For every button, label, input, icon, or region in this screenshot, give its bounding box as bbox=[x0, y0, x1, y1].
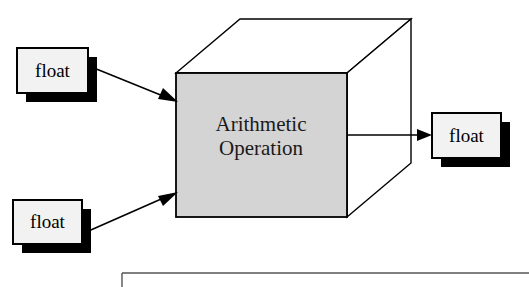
input-float-top[interactable]: float bbox=[17, 48, 97, 102]
arithmetic-operation-label-line2: Operation bbox=[219, 136, 303, 160]
arrow-input-top-head bbox=[158, 88, 178, 102]
arrow-output-head bbox=[417, 129, 432, 141]
output-float-label: float bbox=[449, 125, 485, 146]
output-float[interactable]: float bbox=[432, 113, 510, 167]
input-float-top-label: float bbox=[35, 60, 71, 81]
arithmetic-operation-cube[interactable]: Arithmetic Operation bbox=[176, 19, 411, 217]
bottom-panel-frame bbox=[122, 273, 529, 287]
arithmetic-operation-label-line1: Arithmetic bbox=[216, 112, 307, 136]
input-float-bottom[interactable]: float bbox=[13, 200, 91, 253]
arrow-input-bottom-line bbox=[84, 196, 168, 233]
input-float-bottom-label: float bbox=[30, 211, 66, 232]
diagram-figure: float float Arithmetic Operation float bbox=[0, 0, 529, 287]
arrow-input-top-line bbox=[89, 66, 168, 98]
arrow-input-top bbox=[89, 66, 178, 102]
arrow-input-bottom bbox=[84, 192, 178, 233]
arrow-input-bottom-head bbox=[158, 192, 178, 206]
diagram-canvas: float float Arithmetic Operation float bbox=[0, 0, 529, 287]
